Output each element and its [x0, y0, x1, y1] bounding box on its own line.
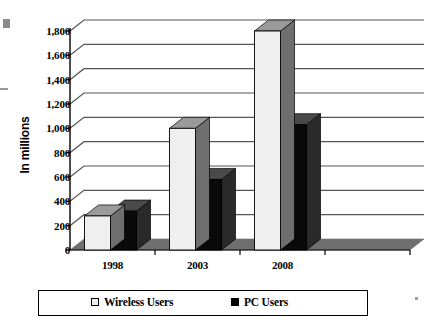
gridlines [70, 20, 424, 226]
x-axis-tick-label: 2008 [240, 259, 325, 271]
y-axis-tick-label: 1,400 [26, 75, 70, 86]
legend-label: PC Users [244, 296, 288, 308]
bars [85, 20, 321, 250]
chart-legend: Wireless Users PC Users [38, 290, 368, 316]
y-axis-tick-label: 200 [26, 221, 70, 232]
y-axis-tick-label: 1,800 [26, 26, 70, 37]
y-axis-tick-label: 1,600 [26, 50, 70, 61]
y-axis-tick-label: 600 [26, 172, 70, 183]
x-axis-tick-label: 1998 [70, 259, 155, 271]
open-square-icon [91, 298, 99, 306]
legend-item-wireless-users: Wireless Users [91, 296, 173, 308]
y-axis-title: In millions [18, 100, 32, 190]
x-axis-ticks: 199820032008 [0, 259, 432, 277]
y-axis-tick-label: 1,200 [26, 99, 70, 110]
filled-square-icon [231, 298, 239, 306]
legend-label: Wireless Users [104, 296, 173, 308]
bar-chart: 1,8001,6001,4001,2001,0008006004002000 I… [0, 0, 432, 324]
y-axis-tick-label: 800 [26, 148, 70, 159]
legend-item-pc-users: PC Users [231, 296, 288, 308]
y-axis-tick-label: 0 [26, 245, 70, 256]
y-axis-tick-label: 400 [26, 196, 70, 207]
y-axis-tick-label: 1,000 [26, 123, 70, 134]
x-axis-tick-label: 2003 [155, 259, 240, 271]
